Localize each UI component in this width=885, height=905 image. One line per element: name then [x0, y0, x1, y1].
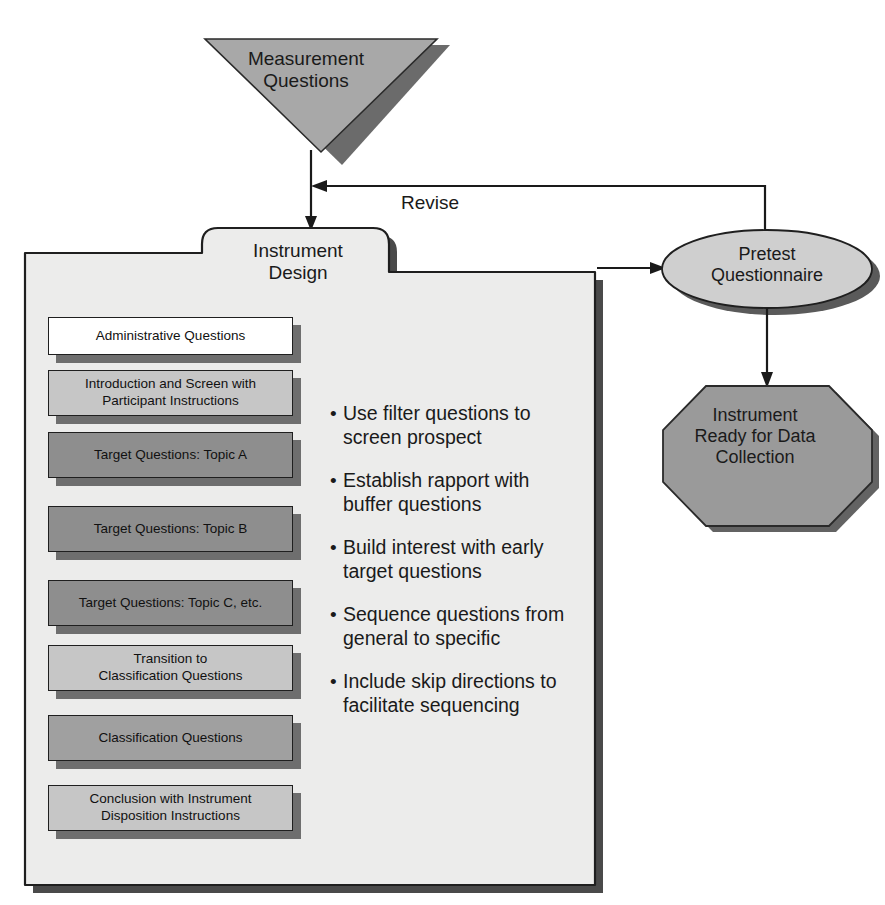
guideline-label: Use filter questions to screen prospect: [343, 402, 531, 450]
bullet-icon: •: [330, 469, 343, 493]
design-guidelines-list: •Use filter questions to screen prospect…: [330, 402, 580, 737]
pretest-questionnaire-ellipse: [662, 230, 872, 308]
question-box-label: Target Questions: Topic B: [94, 521, 248, 538]
question-box: Introduction and Screen with Participant…: [48, 370, 293, 416]
diagram-canvas: Measurement Questions Revise Instrument …: [0, 0, 885, 905]
question-box: Target Questions: Topic C, etc.: [48, 580, 293, 626]
guideline-item: •Build interest with early target questi…: [330, 536, 580, 584]
question-box: Transition to Classification Questions: [48, 645, 293, 691]
question-box: Conclusion with Instrument Disposition I…: [48, 785, 293, 831]
bullet-icon: •: [330, 402, 343, 426]
arrow-revise-head: [311, 180, 327, 192]
question-box-label: Classification Questions: [98, 730, 242, 747]
question-box-label: Conclusion with Instrument Disposition I…: [89, 791, 251, 824]
instrument-ready-octagon: [663, 386, 872, 526]
question-box-label: Target Questions: Topic C, etc.: [79, 595, 263, 612]
question-box: Target Questions: Topic B: [48, 506, 293, 552]
question-box: Classification Questions: [48, 715, 293, 761]
question-box: Administrative Questions: [48, 317, 293, 355]
guideline-label: Build interest with early target questio…: [343, 536, 544, 584]
guideline-label: Establish rapport with buffer questions: [343, 469, 529, 517]
question-box: Target Questions: Topic A: [48, 432, 293, 478]
question-box-label: Target Questions: Topic A: [94, 447, 247, 464]
bullet-icon: •: [330, 670, 343, 694]
question-box-label: Transition to Classification Questions: [98, 651, 242, 684]
guideline-item: •Sequence questions from general to spec…: [330, 603, 580, 651]
guideline-label: Include skip directions to facilitate se…: [343, 670, 557, 718]
bullet-icon: •: [330, 603, 343, 627]
question-box-label: Administrative Questions: [96, 328, 245, 345]
guideline-item: •Include skip directions to facilitate s…: [330, 670, 580, 718]
guideline-item: •Use filter questions to screen prospect: [330, 402, 580, 450]
question-box-label: Introduction and Screen with Participant…: [85, 376, 256, 409]
guideline-item: •Establish rapport with buffer questions: [330, 469, 580, 517]
guideline-label: Sequence questions from general to speci…: [343, 603, 564, 651]
bullet-icon: •: [330, 536, 343, 560]
arrow-revise-path: [322, 186, 765, 231]
